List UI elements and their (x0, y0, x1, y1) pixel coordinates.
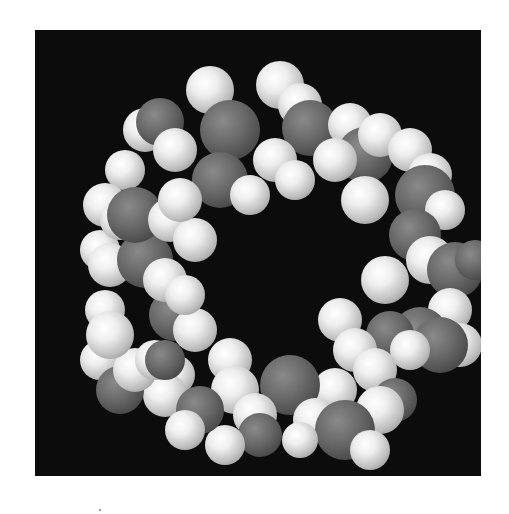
oxygen-atom-sphere (238, 413, 282, 457)
hydrogen-atom-sphere (313, 138, 357, 182)
hydrogen-atom-sphere (282, 422, 318, 458)
hydrogen-atom-sphere (173, 218, 217, 262)
hydrogen-atom-sphere (165, 410, 205, 450)
oxygen-atom-sphere (200, 100, 260, 160)
hydrogen-atom-sphere (165, 275, 205, 315)
stray-dot (99, 509, 101, 511)
hydrogen-atom-sphere (361, 256, 409, 304)
hydrogen-atom-sphere (341, 176, 389, 224)
hydrogen-atom-sphere (275, 160, 315, 200)
hydrogen-atom-sphere (86, 311, 134, 359)
hydrogen-atom-sphere (230, 175, 270, 215)
hydrogen-atom-sphere (158, 178, 202, 222)
hydrogen-atom-sphere (153, 128, 197, 172)
hydrogen-atom-sphere (350, 430, 390, 470)
molecule-image-frame (35, 30, 481, 476)
oxygen-atom-sphere (145, 340, 185, 380)
